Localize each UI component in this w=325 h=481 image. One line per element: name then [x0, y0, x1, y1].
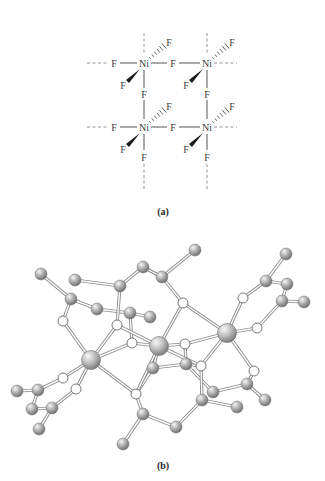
nickel-atom	[82, 351, 101, 370]
oxygen-atom	[238, 293, 248, 303]
bridging-fluorine-label: F	[141, 89, 147, 100]
hashed-wedge-stroke	[222, 110, 226, 115]
carbon-atom	[11, 385, 23, 397]
oxygen-atom	[58, 373, 68, 383]
oxygen-atom	[112, 320, 122, 330]
hashed-wedge-stroke	[222, 46, 226, 51]
hashed-wedge-stroke	[157, 49, 160, 53]
fluorine-atom-label: F	[111, 58, 117, 69]
hashed-wedge-stroke	[157, 113, 160, 117]
carbon-atom	[207, 386, 219, 398]
carbon-atom	[144, 311, 156, 323]
carbon-atom	[26, 403, 38, 415]
hashed-wedge-stroke	[154, 52, 156, 55]
oxygen-atom	[58, 316, 68, 326]
hashed-wedge-stroke	[149, 121, 150, 123]
fluorine-atom-label: F	[183, 80, 189, 91]
carbon-atom	[276, 295, 288, 307]
hashed-wedge-stroke	[149, 57, 150, 59]
hashed-wedge-stroke	[212, 121, 213, 123]
fluorine-atom-label: F	[111, 122, 117, 133]
nickel-atom	[218, 324, 237, 343]
carbon-atom	[65, 293, 77, 305]
carbon-atom	[241, 378, 253, 390]
carbon-atom	[137, 261, 149, 273]
carbon-atom	[117, 438, 129, 450]
carbon-atom	[231, 401, 243, 413]
oxygen-atom	[252, 323, 262, 333]
panel-b-ball-and-stick	[11, 244, 310, 450]
bridging-fluorine-label: F	[204, 89, 210, 100]
oxygen-atom	[127, 338, 137, 348]
hashed-wedge-stroke	[159, 46, 163, 51]
solid-wedge-bond	[189, 133, 203, 147]
nickel-atom-label: Ni	[139, 122, 149, 133]
fluorine-atom-label: F	[229, 37, 235, 48]
figure: NiFFFFFNiFFFNiFFFFFNiFFF (a) (b)	[0, 0, 325, 481]
bridging-fluorine-label: F	[170, 122, 176, 133]
fluorine-atom-label: F	[120, 144, 126, 155]
carbon-atom	[281, 278, 293, 290]
hashed-wedge-stroke	[220, 49, 223, 53]
carbon-atom	[46, 402, 58, 414]
carbon-atom	[91, 303, 103, 315]
carbon-atom	[189, 244, 201, 256]
oxygen-atom	[249, 366, 259, 376]
carbon-atom	[33, 423, 45, 435]
fluorine-atom-label: F	[141, 152, 147, 163]
bond-stick-highlight	[162, 250, 195, 277]
carbon-atom	[114, 280, 126, 292]
oxygen-atom	[180, 339, 190, 349]
hashed-wedge-stroke	[215, 118, 217, 120]
solid-wedge-bond	[126, 133, 140, 147]
hashed-wedge-stroke	[152, 118, 154, 120]
fluorine-atom-label: F	[166, 101, 172, 112]
bond-stick-highlight	[75, 280, 120, 286]
panel-a-nif-lattice: NiFFFFFNiFFFNiFFFFFNiFFF	[87, 33, 237, 190]
solid-wedge-bond	[189, 69, 203, 83]
fluorine-atom-label: F	[120, 80, 126, 91]
fluorine-atom-label: F	[166, 37, 172, 48]
carbon-atom	[298, 296, 310, 308]
oxygen-atom	[131, 389, 141, 399]
carbon-atom	[260, 275, 272, 287]
carbon-atom	[280, 248, 292, 260]
nickel-atom-label: Ni	[202, 122, 212, 133]
carbon-atom	[69, 274, 81, 286]
fluorine-atom-label: F	[204, 152, 210, 163]
carbon-atom	[137, 408, 149, 420]
carbon-atom	[147, 362, 159, 374]
bond	[75, 280, 120, 286]
panel-a-caption: (a)	[157, 206, 169, 218]
hashed-wedge-stroke	[217, 52, 219, 55]
carbon-atom	[124, 307, 136, 319]
oxygen-atom	[71, 384, 81, 394]
hashed-wedge-stroke	[217, 116, 219, 119]
panel-b-caption: (b)	[157, 460, 169, 472]
hashed-wedge-stroke	[154, 116, 156, 119]
bond	[162, 250, 195, 277]
oxygen-atom	[196, 361, 206, 371]
carbon-atom	[35, 268, 47, 280]
carbon-atom	[196, 394, 208, 406]
bridging-fluorine-label: F	[170, 58, 176, 69]
hashed-wedge-stroke	[215, 54, 217, 56]
hashed-wedge-stroke	[220, 113, 223, 117]
hashed-wedge-stroke	[159, 110, 163, 115]
figure-canvas: NiFFFFFNiFFFNiFFFFFNiFFF (a) (b)	[0, 0, 325, 481]
solid-wedge-bond	[126, 69, 140, 83]
carbon-atom	[180, 358, 192, 370]
oxygen-atom	[178, 298, 188, 308]
carbon-atom	[32, 384, 44, 396]
nickel-atom-label: Ni	[202, 58, 212, 69]
fluorine-atom-label: F	[229, 101, 235, 112]
hashed-wedge-stroke	[152, 54, 154, 56]
atoms	[11, 244, 310, 450]
nickel-atom-label: Ni	[139, 58, 149, 69]
carbon-atom	[156, 271, 168, 283]
nickel-atom	[150, 337, 169, 356]
hashed-wedge-stroke	[212, 57, 213, 59]
carbon-atom	[170, 421, 182, 433]
carbon-atom	[259, 394, 271, 406]
fluorine-atom-label: F	[183, 144, 189, 155]
